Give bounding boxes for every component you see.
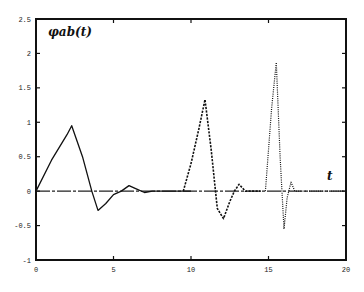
y-tick-label: 0.5	[18, 153, 31, 161]
data-series	[36, 62, 346, 229]
x-tick-label: 0	[34, 266, 38, 274]
line-chart: -1-0.500.511.522.505101520 φab(t) t	[0, 0, 364, 292]
y-tick-label: -0.5	[14, 222, 31, 230]
t-axis-label: t	[327, 169, 333, 183]
x-tick-label: 20	[342, 266, 350, 274]
y-tick-label: -1	[23, 257, 31, 265]
x-tick-label: 10	[187, 266, 195, 274]
x-tick-label: 15	[264, 266, 272, 274]
y-tick-label: 1	[27, 119, 31, 127]
y-tick-label: 1.5	[18, 84, 31, 92]
y-tick-label: 2.5	[18, 16, 31, 24]
y-tick-label: 0	[27, 188, 31, 196]
axis-ticks: -1-0.500.511.522.505101520	[14, 16, 350, 275]
series-solid	[36, 126, 191, 211]
y-tick-label: 2	[27, 50, 31, 58]
plot-frame	[36, 19, 346, 260]
function-label: φab(t)	[48, 25, 92, 39]
x-tick-label: 5	[111, 266, 115, 274]
series-dotted	[265, 62, 346, 229]
series-dashed	[183, 100, 260, 219]
